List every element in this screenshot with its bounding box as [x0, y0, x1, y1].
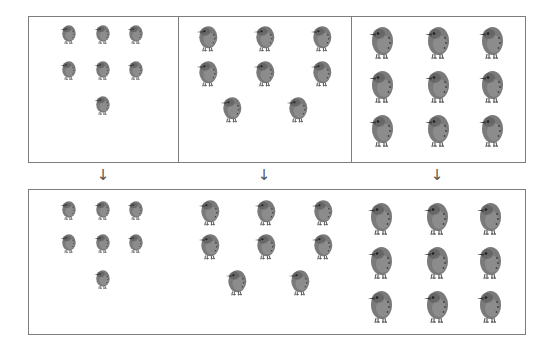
bird-icon: [219, 94, 243, 124]
bird-icon: [224, 267, 248, 297]
bird-icon: [310, 197, 334, 227]
bird-icon: [126, 232, 144, 254]
bird-icon: [252, 58, 276, 88]
bird-icon: [477, 111, 505, 149]
bird-icon: [422, 287, 450, 325]
bird-icon: [367, 111, 395, 149]
bird-icon: [126, 199, 144, 221]
bird-icon: [195, 58, 219, 88]
bird-icon: [253, 197, 277, 227]
top-divider-1: [178, 16, 179, 163]
down-arrow-icon: ↓: [257, 168, 271, 183]
top-divider-2: [351, 16, 352, 163]
bird-icon: [477, 23, 505, 61]
bird-icon: [197, 231, 221, 261]
bird-icon: [93, 59, 111, 81]
bird-icon: [285, 94, 309, 124]
bird-icon: [309, 58, 333, 88]
bird-icon: [367, 23, 395, 61]
bird-icon: [366, 243, 394, 281]
bird-icon: [422, 243, 450, 281]
bird-icon: [423, 111, 451, 149]
bird-icon: [93, 232, 111, 254]
bird-icon: [475, 243, 503, 281]
bird-icon: [475, 199, 503, 237]
bird-icon: [310, 231, 334, 261]
down-arrow-icon: ↓: [96, 168, 110, 183]
bird-icon: [126, 59, 144, 81]
bird-icon: [93, 94, 111, 116]
bird-icon: [423, 23, 451, 61]
bird-icon: [93, 199, 111, 221]
bird-icon: [59, 23, 77, 45]
bird-icon: [59, 199, 77, 221]
bird-icon: [197, 197, 221, 227]
bird-icon: [93, 23, 111, 45]
bird-icon: [477, 67, 505, 105]
bird-icon: [126, 23, 144, 45]
bird-icon: [287, 267, 311, 297]
bird-icon: [93, 268, 111, 290]
bird-icon: [59, 232, 77, 254]
bird-icon: [423, 67, 451, 105]
bird-icon: [195, 23, 219, 53]
bird-icon: [252, 23, 276, 53]
bird-icon: [366, 287, 394, 325]
bird-icon: [309, 23, 333, 53]
bird-icon: [253, 231, 277, 261]
down-arrow-icon: ↓: [430, 168, 444, 183]
bird-icon: [422, 199, 450, 237]
bird-icon: [475, 287, 503, 325]
bird-icon: [367, 67, 395, 105]
bird-icon: [366, 199, 394, 237]
bird-icon: [59, 59, 77, 81]
